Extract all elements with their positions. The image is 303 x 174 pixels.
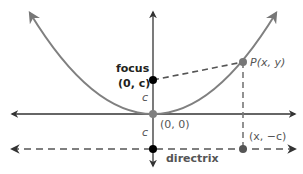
c-lower-label: c (142, 126, 148, 139)
vertex-point (149, 110, 157, 118)
directrix-origin-point (149, 145, 157, 153)
directrix-x-point (239, 145, 247, 153)
focus-to-p-segment (153, 62, 243, 80)
focus-coord-label: (0, c) (118, 77, 150, 90)
directrix-label: directrix (166, 152, 219, 165)
parabola-diagram: focus (0, c) c (0, 0) c P(x, y) (x, −c) … (0, 0, 303, 174)
focus-label: focus (116, 62, 150, 75)
directrix-point-label: (x, −c) (249, 130, 286, 143)
p-point (239, 58, 247, 66)
c-upper-label: c (142, 91, 148, 104)
vertex-label: (0, 0) (160, 118, 190, 131)
point-p-label: P(x, y) (250, 56, 285, 69)
